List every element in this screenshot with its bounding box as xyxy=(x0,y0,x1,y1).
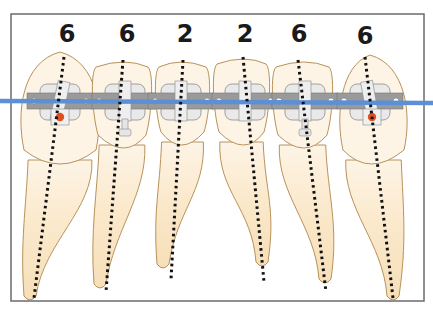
dental-bracket-diagram: 662266 xyxy=(0,0,433,310)
angulation-label: 6 xyxy=(357,22,374,50)
bracket-hook-icon xyxy=(119,129,131,136)
angulation-label: 6 xyxy=(291,20,308,48)
angulation-label: 6 xyxy=(59,20,76,48)
archwire xyxy=(0,101,433,103)
angulation-label: 2 xyxy=(177,20,194,48)
bracket-hook-icon xyxy=(299,129,311,136)
angulation-label: 2 xyxy=(237,20,254,48)
angulation-label: 6 xyxy=(119,20,136,48)
